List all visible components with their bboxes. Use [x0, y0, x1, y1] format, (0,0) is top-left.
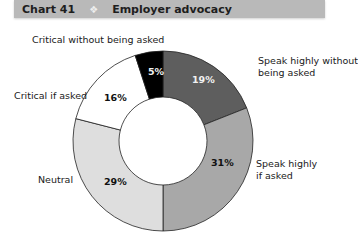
label-line: if asked	[256, 170, 317, 182]
pct-critical-if: 16%	[104, 92, 127, 103]
pct-neutral: 29%	[104, 176, 127, 187]
pct-critical-without: 5%	[148, 66, 164, 77]
label-line: being asked	[258, 67, 358, 79]
slice-speak-if	[163, 108, 253, 231]
label-critical-if: Critical if asked	[14, 90, 87, 102]
pct-speak-if: 31%	[211, 157, 234, 168]
label-speak-without: Speak highly without being asked	[258, 55, 358, 79]
label-line: Speak highly	[256, 158, 317, 170]
label-neutral: Neutral	[38, 174, 73, 186]
pct-speak-without: 19%	[192, 74, 215, 85]
label-line: Speak highly without	[258, 55, 358, 67]
label-critical-without: Critical without being asked	[32, 34, 164, 46]
slice-neutral	[73, 119, 163, 231]
label-speak-if: Speak highly if asked	[256, 158, 317, 182]
